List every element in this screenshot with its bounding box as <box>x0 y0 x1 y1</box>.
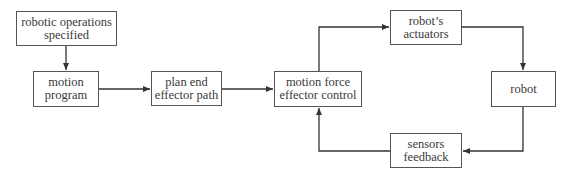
node-plan-end-effector-path: plan end effector path <box>151 71 222 106</box>
node-label: feedback <box>403 151 448 164</box>
node-label: robot <box>510 83 536 96</box>
node-label: robot’s <box>409 15 444 28</box>
node-robots-actuators: robot’s actuators <box>390 10 462 45</box>
node-label: sensors <box>408 138 445 151</box>
node-sensors-feedback: sensors feedback <box>390 133 462 168</box>
node-label: actuators <box>403 28 448 41</box>
arrow-sensors-to-control <box>319 108 390 151</box>
node-robot: robot <box>491 71 556 107</box>
node-robotic-operations-specified: robotic operations specified <box>16 11 117 46</box>
arrow-robot-to-sensors <box>463 107 523 151</box>
node-motion-program: motion program <box>33 71 99 107</box>
node-label: program <box>45 89 87 102</box>
arrow-control-to-actuators <box>319 27 389 71</box>
node-label: effector path <box>155 89 218 102</box>
arrow-actuators-to-robot <box>462 27 523 70</box>
node-label: plan end <box>165 76 208 89</box>
node-label: robotic operations <box>21 16 112 29</box>
node-label: specified <box>44 29 89 42</box>
node-label: effector control <box>279 89 356 102</box>
node-motion-force-effector-control: motion force effector control <box>274 71 362 107</box>
